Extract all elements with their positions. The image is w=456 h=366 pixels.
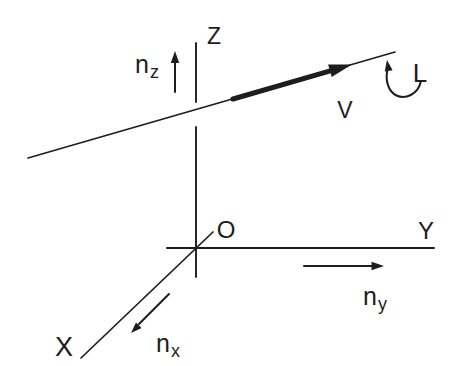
label-n-y: ny (363, 284, 387, 309)
label-n-z-base: n (135, 50, 149, 78)
vector-v-arrow (233, 64, 352, 99)
label-line-l: L (413, 60, 427, 86)
vector-v-arrowhead (328, 64, 352, 77)
label-n-z-sub: z (150, 63, 159, 81)
label-vector-v: V (337, 99, 352, 122)
n-y-arrowhead (372, 262, 385, 270)
diagram-strokes (0, 0, 456, 366)
n-z-arrow (171, 51, 179, 92)
x-axis-line (81, 232, 213, 358)
label-x-axis: X (55, 334, 73, 361)
label-z-axis: Z (207, 25, 221, 48)
l-pointer-arrowhead (385, 60, 393, 72)
axes-line-diagram: Z Y X O V L nz ny nx (0, 0, 456, 366)
label-n-y-sub: y (378, 295, 387, 313)
n-z-arrowhead (171, 51, 179, 63)
n-y-arrow (304, 262, 384, 270)
label-y-axis: Y (418, 219, 434, 243)
vector-v-shaft (233, 70, 332, 99)
n-x-arrow (131, 294, 169, 333)
label-n-z: nz (135, 52, 159, 77)
label-origin: O (217, 218, 236, 242)
label-n-x: nx (156, 331, 180, 356)
label-n-x-sub: x (171, 342, 180, 360)
label-n-y-base: n (363, 282, 377, 310)
label-n-x-base: n (156, 329, 170, 357)
